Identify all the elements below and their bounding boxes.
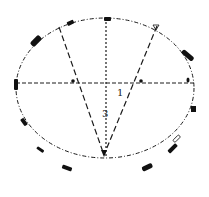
marker-upper-left-large xyxy=(30,35,43,48)
point-left-intersection xyxy=(71,79,75,83)
marker-top xyxy=(104,17,111,21)
marker-left xyxy=(14,79,18,90)
marker-lower-left-1 xyxy=(20,118,28,127)
marker-lower-right-1 xyxy=(141,163,153,172)
marker-lower-right-3 xyxy=(173,135,181,143)
ellipse-outline xyxy=(16,18,194,158)
marker-lower-left-3 xyxy=(62,164,73,171)
marker-right xyxy=(191,106,196,112)
ellipse-diagram: 1 3 xyxy=(0,0,209,197)
key-points xyxy=(71,25,189,157)
marker-upper-right xyxy=(181,49,195,62)
fan-line-left xyxy=(59,27,104,155)
marker-lower-left-2 xyxy=(36,146,44,153)
marker-lower-right-2 xyxy=(167,143,178,154)
point-right-intersection xyxy=(139,79,143,83)
point-right-end xyxy=(187,78,190,83)
perimeter-markers xyxy=(14,17,196,172)
label-3: 3 xyxy=(102,108,108,119)
label-1: 1 xyxy=(117,87,123,98)
marker-upper-left-small xyxy=(66,19,74,26)
fan-line-right xyxy=(104,26,157,155)
